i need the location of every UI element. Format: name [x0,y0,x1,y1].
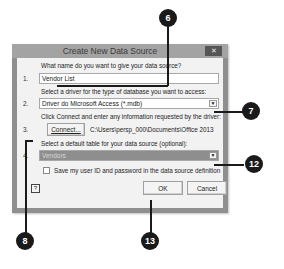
ok-button[interactable]: OK [143,181,183,195]
callout-6-line-vertical [167,26,169,86]
callout-13: 13 [141,232,159,250]
driver-select[interactable]: Driver do Microsoft Access (*.mdb) ▼ [39,98,219,109]
callout-6-line-horizontal [57,85,168,87]
default-table-select[interactable]: Vendors ▼ [39,150,219,161]
default-table-select-value: Vendors [42,152,66,159]
create-new-data-source-dialog: Create New Data Source ✕ What name do yo… [12,44,228,213]
step1-prompt: What name do you want to give your data … [41,62,181,69]
step1-number: 1. [23,75,28,82]
chevron-down-icon[interactable]: ▼ [209,100,217,107]
dialog-content: What name do you want to give your data … [17,58,223,208]
data-source-name-input[interactable]: Vendor List [39,73,219,84]
step4-prompt: Select a default table for your data sou… [41,140,187,147]
save-credentials-label[interactable]: Save my user ID and password in the data… [54,167,220,174]
database-path: C:\Users\persp_000\Documents\Office 2013 [90,126,213,133]
save-credentials-checkbox[interactable] [43,167,50,174]
callout-8: 8 [16,232,34,250]
connect-button[interactable]: Connect... [47,123,85,136]
step3-number: 3. [23,126,28,133]
chevron-down-icon[interactable]: ▼ [209,152,217,159]
step2-number: 2. [23,100,28,107]
callout-6: 6 [159,9,177,27]
close-button[interactable]: ✕ [205,46,222,56]
callout-12: 12 [245,155,263,173]
callout-7-line [214,111,244,113]
title-bar: Create New Data Source ✕ [12,44,228,58]
driver-select-value: Driver do Microsoft Access (*.mdb) [42,100,142,107]
help-button[interactable]: ? [31,184,40,193]
callout-8-line-vertical [25,140,27,234]
callout-13-line [150,200,152,234]
close-icon: ✕ [211,47,217,54]
callout-7: 7 [242,102,260,120]
cancel-button[interactable]: Cancel [187,181,227,195]
dialog-title: Create New Data Source [12,46,208,56]
step2-prompt: Select a driver for the type of database… [41,88,206,95]
step3-prompt: Click Connect and enter any information … [41,113,221,120]
callout-12-line [214,164,244,166]
callout-8-line-horizontal [25,140,33,142]
